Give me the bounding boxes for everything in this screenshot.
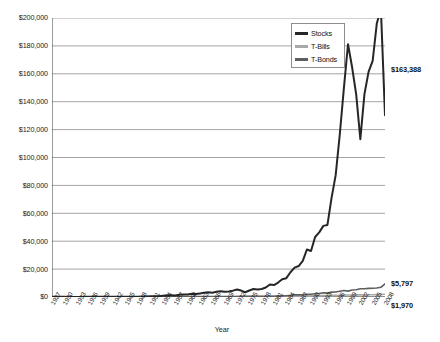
y-tick-label: $120,000 xyxy=(19,126,48,133)
y-tick-label: $60,000 xyxy=(23,210,48,217)
legend-swatch-stocks xyxy=(295,32,308,34)
legend-item-stocks: Stocks xyxy=(295,27,341,40)
legend-item-tbonds: T-Bonds xyxy=(295,53,341,66)
x-axis-title-text: Year xyxy=(215,325,230,334)
y-axis-tick-labels: $0$20,000$40,000$60,000$80,000$100,000$1… xyxy=(0,0,48,342)
chart-legend: Stocks T-Bills T-Bonds xyxy=(291,23,345,68)
y-tick-label: $160,000 xyxy=(19,70,48,77)
y-tick-label: $100,000 xyxy=(19,154,48,161)
x-axis-tick-labels: 1927193019331936193919421945194819511954… xyxy=(0,297,440,327)
legend-label-tbills: T-Bills xyxy=(311,43,330,50)
growth-of-1927-investment-chart: $0$20,000$40,000$60,000$80,000$100,000$1… xyxy=(0,0,440,342)
y-tick-label: $200,000 xyxy=(19,14,48,21)
tbonds-end-value-label: $5,797 xyxy=(391,279,413,288)
legend-label-stocks: Stocks xyxy=(311,30,332,37)
y-tick-label: $140,000 xyxy=(19,98,48,105)
y-tick-label: $40,000 xyxy=(23,238,48,245)
y-tick-label: $80,000 xyxy=(23,182,48,189)
y-tick-label: $180,000 xyxy=(19,42,48,49)
stocks-end-value-label: $163,388 xyxy=(391,65,421,74)
x-axis-title: Year xyxy=(0,325,440,334)
legend-swatch-tbills xyxy=(295,45,308,47)
legend-swatch-tbonds xyxy=(295,58,308,60)
legend-label-tbonds: T-Bonds xyxy=(311,56,337,63)
y-tick-label: $20,000 xyxy=(23,266,48,273)
legend-item-tbills: T-Bills xyxy=(295,40,341,53)
